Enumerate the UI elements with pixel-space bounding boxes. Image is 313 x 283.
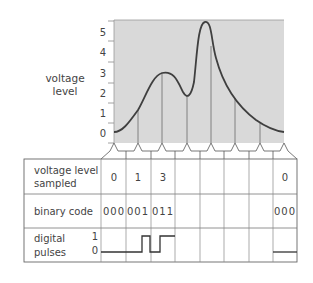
y-tick-0: 0	[100, 128, 106, 139]
digital-pulse-waveform	[101, 236, 175, 252]
binary-code-8: 000	[274, 206, 296, 217]
row-label-binary-code: binary code	[34, 206, 93, 217]
binary-code-2: 001	[127, 206, 149, 217]
row-label-voltage-sampled-1: voltage level	[34, 165, 98, 176]
connector-drops	[126, 151, 273, 159]
pulse-level-high: 1	[92, 231, 98, 242]
binary-code-3: 011	[152, 206, 174, 217]
y-axis-ticks	[108, 21, 114, 143]
y-axis-label-line2: level	[53, 85, 78, 97]
pulse-level-low: 0	[92, 245, 98, 256]
binary-code-1: 000	[103, 206, 125, 217]
sampling-clock-connectors	[101, 143, 297, 159]
analog-to-digital-diagram: 5 4 3 2 1 0 voltage level	[0, 0, 313, 283]
row-label-voltage-sampled-2: sampled	[34, 178, 77, 189]
row-label-digital-pulses-2: pulses	[34, 247, 66, 258]
row-label-digital-pulses-1: digital	[34, 233, 65, 244]
sampled-value-2: 1	[135, 172, 141, 183]
sampled-value-8: 0	[282, 172, 288, 183]
sampled-value-3: 3	[160, 172, 166, 183]
y-tick-4: 4	[100, 47, 106, 58]
y-tick-5: 5	[100, 27, 106, 38]
y-axis-label-line1: voltage	[45, 72, 84, 84]
y-tick-2: 2	[100, 88, 106, 99]
sampled-value-1: 0	[111, 172, 117, 183]
y-tick-1: 1	[100, 108, 106, 119]
y-tick-3: 3	[100, 68, 106, 79]
